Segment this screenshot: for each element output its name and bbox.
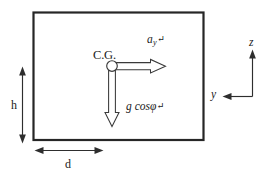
lateral-acceleration-label: ay↵ — [147, 34, 165, 47]
gravity-component-symbol: g cos — [126, 100, 150, 112]
gravity-component-arrow — [105, 70, 119, 127]
diagram-graphics-layer — [0, 0, 280, 175]
width-dimension-arrow — [35, 147, 104, 154]
height-dimension-label: h — [11, 99, 17, 111]
vehicle-body-outline — [34, 13, 204, 141]
height-dimension-arrow — [19, 67, 26, 144]
z-axis-label: z — [249, 37, 253, 49]
lateral-acceleration-arrow — [114, 59, 166, 73]
width-dimension-label: d — [65, 158, 71, 170]
lateral-acceleration-symbol: a — [147, 33, 153, 45]
coordinate-axes-graphic — [223, 50, 256, 100]
free-body-diagram-figure: C.G. ay↵ g cosφ↵ h d z y — [0, 0, 280, 175]
return-mark-icon: ↵ — [156, 101, 164, 111]
y-axis-label: y — [211, 89, 216, 101]
cg-marker-icon — [107, 61, 118, 72]
gravity-component-label: g cosφ↵ — [126, 101, 164, 113]
cg-label: C.G. — [93, 49, 116, 62]
return-mark-icon: ↵ — [157, 34, 165, 44]
